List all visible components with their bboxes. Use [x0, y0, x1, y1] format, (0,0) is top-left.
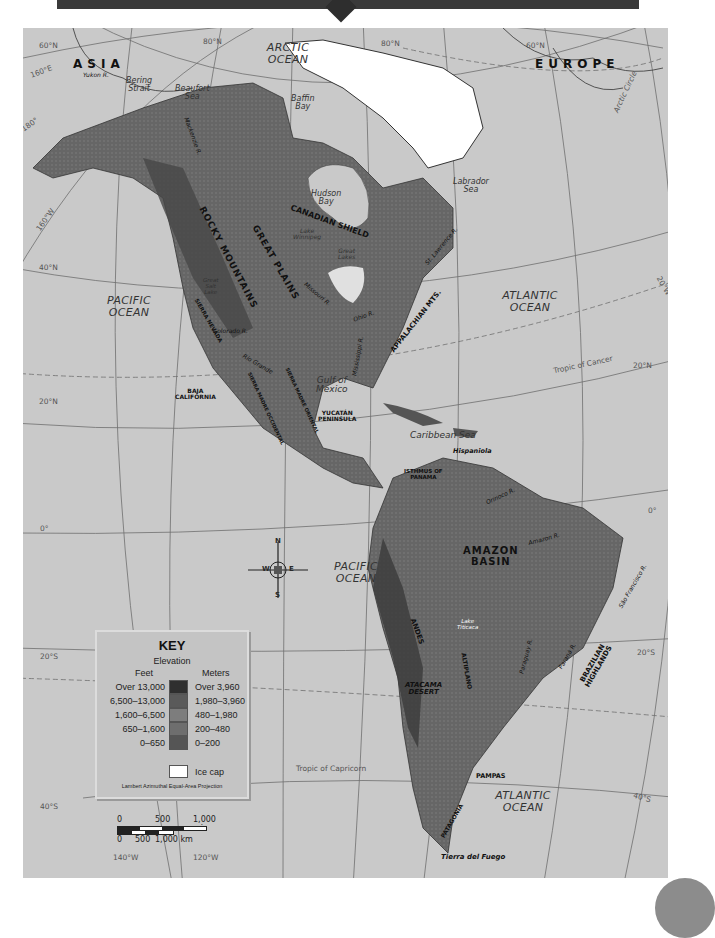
label-europe: EUROPE: [535, 58, 619, 71]
grid-label-60n-east: 60°N: [526, 42, 545, 50]
label-baffin-bay: BaffinBay: [291, 95, 314, 112]
label-great-salt-lake: GreatSaltLake: [203, 278, 218, 295]
key-col-feet: Feet: [135, 668, 153, 678]
grid-label-80n-west: 80°N: [203, 38, 222, 46]
label-isthmus-of-panama: ISTHMUS OFPANAMA: [404, 469, 443, 481]
compass-w: W: [262, 566, 270, 573]
key-swatch: [169, 722, 188, 736]
grid-label-80n-east: 80°N: [381, 40, 400, 48]
key-col-meters: Meters: [202, 668, 230, 678]
label-amazon-basin: AMAZONBASIN: [463, 546, 519, 567]
label-arctic-ocean: ARCTICOCEAN: [258, 42, 318, 65]
grid-label-40s-west: 40°S: [40, 803, 58, 811]
elevation-key: KEY Elevation Feet Meters Over 13,000 Ov…: [95, 630, 249, 799]
compass-rose: N S W E: [248, 540, 308, 600]
label-pacific-ocean-south: PACIFICOCEAN: [326, 561, 386, 584]
scale-bar: 0 500 1,000 mi 0 500 1,000 km: [115, 815, 225, 845]
label-labrador-sea: LabradorSea: [453, 178, 489, 195]
key-swatch: [169, 708, 188, 722]
label-hispaniola: Hispaniola: [453, 448, 492, 455]
label-baja-california: BAJACALIFORNIA: [175, 388, 216, 401]
label-lake-titicaca: LakeTiticaca: [457, 619, 478, 631]
label-yukon-river: Yukon R.: [83, 72, 109, 78]
grid-label-40n: 40°N: [39, 264, 58, 272]
key-ice-swatch: [169, 765, 188, 778]
key-subtitle: Elevation: [97, 656, 247, 666]
label-lake-winnipeg: LakeWinnipeg: [293, 228, 321, 241]
key-row: 0–650 0–200: [97, 736, 247, 750]
grid-label-20s-east: 20°S: [637, 649, 655, 657]
key-projection: Lambert Azimuthal Equal-Area Projection: [97, 783, 247, 789]
grid-label-0-east: 0°: [648, 507, 657, 515]
key-row: Over 13,000 Over 3,960: [97, 680, 247, 694]
label-bering-strait: BeringStrait: [126, 77, 152, 94]
compass-n: N: [275, 538, 281, 545]
label-asia: ASIA: [73, 58, 125, 71]
label-tropic-of-capricorn: Tropic of Capricorn: [296, 765, 366, 773]
key-swatch: [169, 680, 188, 694]
label-great-lakes: GreatLakes: [338, 248, 355, 261]
grid-label-0-west: 0°: [40, 525, 49, 533]
compass-s: S: [275, 592, 280, 599]
grid-label-60n-west: 60°N: [39, 42, 58, 50]
key-swatch: [169, 694, 188, 708]
grid-label-120w: 120°W: [193, 854, 218, 862]
key-row: 650–1,600 200–480: [97, 722, 247, 736]
label-atacama-desert: ATACAMADESERT: [405, 682, 442, 697]
label-atlantic-ocean-north: ATLANTICOCEAN: [495, 290, 565, 313]
label-atlantic-ocean-south: ATLANTICOCEAN: [488, 790, 558, 813]
key-ice-label: Ice cap: [195, 767, 224, 777]
label-pampas: PAMPAS: [476, 773, 506, 780]
key-row: 1,600–6,500 480–1,980: [97, 708, 247, 722]
key-title: KEY: [97, 638, 247, 653]
label-beaufort-sea: BeaufortSea: [175, 85, 210, 102]
key-row: 6,500–13,000 1,980–3,960: [97, 694, 247, 708]
compass-e: E: [289, 566, 294, 573]
key-swatch: [169, 736, 188, 750]
grid-label-20n-east: 20°N: [633, 362, 652, 370]
label-colorado-river: Colorado R.: [213, 328, 248, 334]
label-pacific-ocean-north: PACIFICOCEAN: [99, 295, 159, 318]
label-tierra-del-fuego: Tierra del Fuego: [441, 854, 505, 861]
label-yucatan-peninsula: YUCATÁNPENINSULA: [318, 410, 356, 423]
grid-label-20s-west: 20°S: [40, 653, 58, 661]
grid-label-140w: 140°W: [113, 854, 138, 862]
label-caribbean-sea: Caribbean Sea: [410, 431, 476, 440]
label-hudson-bay: HudsonBay: [311, 190, 341, 207]
header-diamond-ornament: [325, 0, 356, 23]
label-gulf-of-mexico: Gulf ofMexico: [316, 376, 348, 395]
page-corner-tab: [655, 878, 715, 938]
grid-label-20n-west: 20°N: [39, 398, 58, 406]
